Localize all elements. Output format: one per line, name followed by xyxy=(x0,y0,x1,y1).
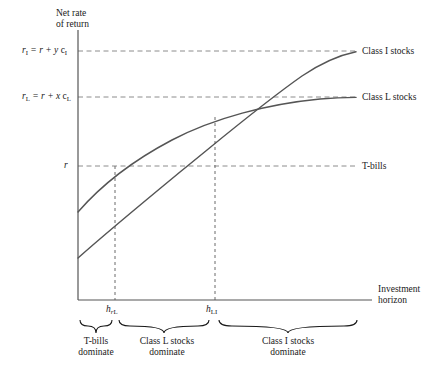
x-axis-title: Investment horizon xyxy=(378,284,420,305)
bracket-caption-t-bills-line1: T-bills xyxy=(84,336,108,346)
x-tick-label-h-rL: hrL xyxy=(106,304,118,315)
x-axis-title-line2: horizon xyxy=(378,295,407,305)
curve-label-class-l-stocks: Class L stocks xyxy=(362,92,417,103)
bracket-class-l-dominate xyxy=(119,320,209,333)
curve-class-i-stocks xyxy=(78,52,356,258)
bracket-caption-class-i-line2: dominate xyxy=(270,347,305,357)
bracket-caption-class-i-line1: Class I stocks xyxy=(262,336,314,346)
curve-class-l-stocks xyxy=(78,97,356,212)
y-tick-label-r-I: rI = r + y cI xyxy=(22,45,67,56)
bracket-caption-class-l-line1: Class L stocks xyxy=(140,336,195,346)
x-axis-title-line1: Investment xyxy=(378,284,420,294)
bracket-t-bills-dominate xyxy=(80,320,112,333)
bracket-class-i-dominate xyxy=(219,320,357,333)
figure-net-rate-of-return-vs-investment-horizon: Net rate of return Investment horizon rI… xyxy=(0,0,448,373)
x-tick-label-h-LI: hLI xyxy=(206,304,217,315)
curve-label-t-bills: T-bills xyxy=(362,161,386,172)
y-tick-label-r: r xyxy=(64,160,68,171)
y-axis-title-line2: of return xyxy=(56,19,89,29)
y-tick-label-r-L: rL = r + x cL xyxy=(22,91,71,102)
bracket-caption-t-bills-line2: dominate xyxy=(78,347,113,357)
y-axis-title-line1: Net rate xyxy=(56,8,86,18)
curve-label-class-i-stocks: Class I stocks xyxy=(362,46,414,57)
bracket-caption-class-l-line2: dominate xyxy=(149,347,184,357)
bracket-caption-class-l-dominate: Class L stocks dominate xyxy=(122,336,212,357)
bracket-caption-class-i-dominate: Class I stocks dominate xyxy=(243,336,333,357)
y-axis-title: Net rate of return xyxy=(56,8,89,29)
